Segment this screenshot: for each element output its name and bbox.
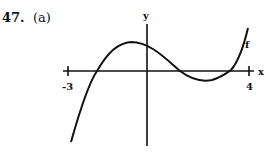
tick-label-left: -3: [62, 81, 73, 92]
x-axis-label: x: [258, 66, 265, 77]
curve-label-f: f: [245, 39, 250, 50]
y-axis-label: y: [142, 10, 150, 21]
function-curve-f: [71, 28, 248, 142]
function-graph: y x -3 4 f: [0, 0, 279, 152]
tick-label-right: 4: [246, 81, 253, 92]
